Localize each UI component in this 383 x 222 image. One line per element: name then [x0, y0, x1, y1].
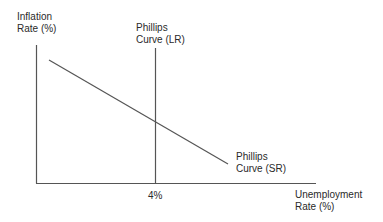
sr-curve-label: Phillips Curve (SR) [236, 151, 286, 175]
sr-curve-label-line2: Curve (SR) [236, 163, 286, 175]
lr-curve-label-line1: Phillips [136, 22, 185, 34]
phillips-curve-diagram: Inflation Rate (%) Phillips Curve (LR) P… [0, 0, 383, 222]
y-axis-label-line1: Inflation [17, 11, 56, 23]
sr-curve-label-line1: Phillips [236, 151, 286, 163]
lr-curve-label-line2: Curve (LR) [136, 34, 185, 46]
x-axis-label-line1: Unemployment [295, 189, 362, 201]
x-axis-label: Unemployment Rate (%) [295, 189, 362, 213]
natural-rate-tick-label: 4% [148, 190, 162, 202]
short-run-phillips-curve [49, 60, 228, 164]
x-axis-label-line2: Rate (%) [295, 201, 362, 213]
y-axis-label: Inflation Rate (%) [17, 11, 56, 35]
y-axis-label-line2: Rate (%) [17, 23, 56, 35]
lr-curve-label: Phillips Curve (LR) [136, 22, 185, 46]
